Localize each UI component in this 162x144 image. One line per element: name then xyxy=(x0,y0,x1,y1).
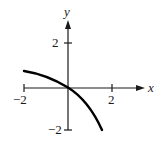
function-curve xyxy=(24,71,102,130)
y-tick-label-2: 2 xyxy=(52,35,59,50)
x-tick-label-neg2: −2 xyxy=(13,92,27,107)
x-tick-label-2: 2 xyxy=(108,92,115,107)
x-axis-arrow-icon xyxy=(136,85,145,91)
y-tick-label-neg2: −2 xyxy=(48,122,62,137)
graph: y x −2 2 2 −2 xyxy=(0,0,162,144)
y-axis-arrow-icon xyxy=(65,20,71,29)
x-axis-label: x xyxy=(147,80,154,95)
y-axis-label: y xyxy=(62,4,70,19)
